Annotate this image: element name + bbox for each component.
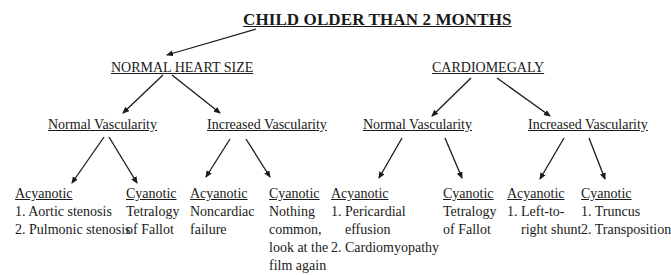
leaf-line: 1. Aortic stenosis (15, 203, 131, 221)
node-cm-normal-vascularity: Normal Vascularity (363, 118, 472, 132)
leaf-line: right shunt (507, 221, 581, 239)
leaf-line: of Fallot (126, 221, 179, 239)
leaf-cm-nv-acyanotic: Acyanotic 1. Pericardial effusion 2. Car… (331, 185, 439, 257)
leaf-line: 2. Transposition (581, 221, 671, 239)
arrow-nhs-to-normal-vasc (123, 75, 163, 113)
node-nhs-normal-vascularity: Normal Vascularity (48, 118, 157, 132)
leaf-line: 1. Left-to- (507, 203, 581, 221)
leaf-line: 2. Pulmonic stenosis (15, 221, 131, 239)
leaf-line: of Fallot (443, 221, 496, 239)
leaf-line: Nothing (269, 203, 328, 221)
arrow-cardio-to-normal-vasc (432, 78, 471, 116)
leaf-line: Noncardiac (190, 203, 255, 221)
arrow-cardio-to-increased-vasc (497, 78, 550, 116)
arrow-cm-iv-cyanotic (589, 138, 605, 179)
leaf-line: 2. Cardiomyopathy (331, 239, 439, 257)
node-cardiomegaly: CARDIOMEGALY (432, 61, 544, 75)
leaf-nhs-iv-acyanotic: Acyanotic Noncardiac failure (190, 185, 255, 239)
arrow-cm-nv-cyanotic (445, 138, 462, 178)
leaf-cm-nv-cyanotic: Cyanotic Tetralogy of Fallot (443, 185, 496, 239)
arrow-nhs-nv-acyanotic (72, 137, 104, 183)
leaf-line: failure (190, 221, 255, 239)
leaf-line: 1. Pericardial (331, 203, 439, 221)
leaf-heading: Acyanotic (190, 185, 255, 203)
leaf-heading: Cyanotic (126, 185, 179, 203)
leaf-line: Tetralogy (443, 203, 496, 221)
arrow-cm-nv-acyanotic (379, 138, 402, 178)
leaf-nhs-iv-cyanotic: Cyanotic Nothing common, look at the fil… (269, 185, 328, 275)
leaf-line: film again (269, 257, 328, 275)
arrow-cm-iv-acyanotic (540, 138, 564, 179)
leaf-line: effusion (331, 221, 439, 239)
arrow-nhs-nv-cyanotic (109, 137, 137, 183)
leaf-cm-iv-cyanotic: Cyanotic 1. Truncus 2. Transposition (581, 185, 671, 239)
leaf-nhs-nv-cyanotic: Cyanotic Tetralogy of Fallot (126, 185, 179, 239)
leaf-heading: Cyanotic (581, 185, 671, 203)
leaf-heading: Cyanotic (269, 185, 328, 203)
node-normal-heart-size: NORMAL HEART SIZE (111, 61, 253, 75)
leaf-heading: Cyanotic (443, 185, 496, 203)
node-cm-increased-vascularity: Increased Vascularity (528, 118, 648, 132)
leaf-heading: Acyanotic (15, 185, 131, 203)
leaf-cm-iv-acyanotic: Acyanotic 1. Left-to- right shunt (507, 185, 581, 239)
leaf-heading: Acyanotic (507, 185, 581, 203)
arrow-nhs-iv-acyanotic (206, 139, 230, 177)
arrow-title-to-normal-heart-size (167, 29, 256, 55)
leaf-heading: Acyanotic (331, 185, 439, 203)
arrow-nhs-iv-cyanotic (246, 139, 270, 177)
leaf-line: 1. Truncus (581, 203, 671, 221)
leaf-line: look at the (269, 239, 328, 257)
leaf-line: Tetralogy (126, 203, 179, 221)
node-nhs-increased-vascularity: Increased Vascularity (207, 118, 327, 132)
leaf-nhs-nv-acyanotic: Acyanotic 1. Aortic stenosis 2. Pulmonic… (15, 185, 131, 239)
diagram-title: CHILD OLDER THAN 2 MONTHS (243, 11, 512, 28)
leaf-line: common, (269, 221, 328, 239)
arrow-nhs-to-increased-vasc (172, 75, 220, 113)
